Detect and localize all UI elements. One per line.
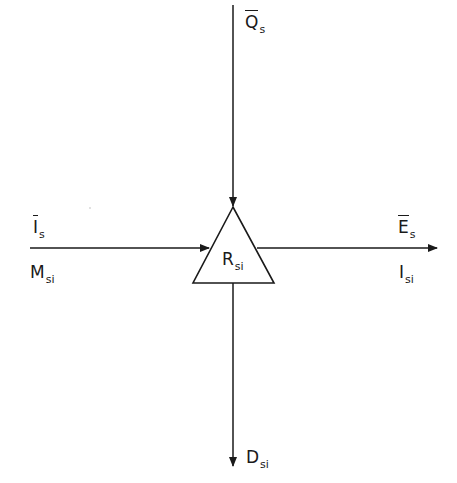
label-main: I	[399, 264, 404, 281]
label-main: R	[222, 251, 234, 268]
label-q-s: Qs	[245, 14, 265, 35]
label-main: I	[33, 219, 38, 236]
label-i-s: Is	[33, 219, 45, 240]
diagram-canvas	[0, 0, 457, 483]
label-main: E	[398, 219, 409, 236]
label-d-si: Dsi	[246, 449, 269, 470]
label-e-s: Es	[398, 219, 415, 240]
label-subscript: s	[259, 23, 265, 36]
label-main: D	[246, 449, 259, 466]
label-main: M	[30, 264, 45, 281]
label-subscript: si	[260, 458, 269, 471]
speck	[89, 207, 91, 209]
label-subscript: si	[46, 273, 55, 286]
label-i-si: Isi	[399, 264, 414, 285]
label-subscript: si	[235, 260, 244, 273]
label-m-si: Msi	[30, 264, 54, 285]
label-subscript: si	[405, 273, 414, 286]
label-subscript: s	[39, 228, 45, 241]
label-main: Q	[245, 14, 258, 31]
label-r-si: Rsi	[222, 251, 244, 272]
label-subscript: s	[410, 228, 416, 241]
